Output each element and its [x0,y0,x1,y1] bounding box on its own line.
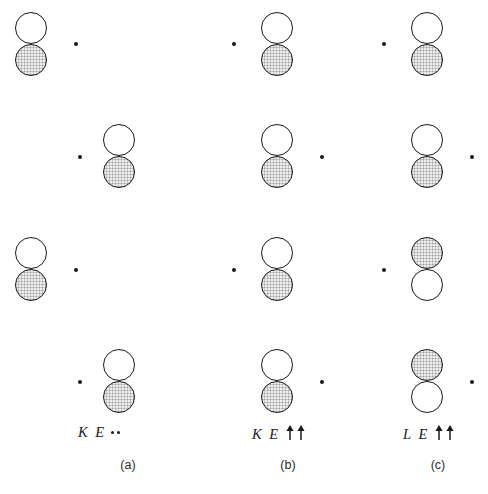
state-label-a: KE [78,424,120,441]
orbital-pair-b-row2 [261,124,297,194]
orbital-lobe-bottom-white [411,269,443,301]
orbital-lobe-bottom-gray [411,44,443,76]
spin-pair-arrows [286,425,305,444]
orbital-lobe-top-gray [411,349,443,381]
arrow-up-icon [435,425,443,444]
nucleus-dot-b-row3 [232,268,236,272]
orbital-lobe-bottom-white [411,381,443,413]
orbital-lobe-bottom-gray [103,381,135,413]
state-label-c: LE [403,424,454,443]
spin-dot-icon [117,431,120,434]
orbital-lobe-top-white [261,237,293,269]
orbital-lobe-top-white [103,349,135,381]
orbital-pair-b-row4 [261,349,297,419]
nucleus-dot-b-row4 [320,380,324,384]
orbital-overlap-figure: KE(a)KE(b)LE(c) [0,0,488,494]
orbital-pair-a-row3 [15,237,51,307]
orbital-pair-c-row2 [411,124,447,194]
state-label-b: KE [252,424,305,443]
orbital-lobe-bottom-gray [411,156,443,188]
orbital-pair-c-row1 [411,12,447,82]
orbital-lobe-top-gray [411,237,443,269]
spin-pair-dots [111,431,120,434]
orbital-pair-b-row1 [261,12,297,82]
nucleus-dot-b-row1 [232,42,236,46]
orbital-lobe-bottom-gray [261,156,293,188]
spin-pair-arrows [435,425,454,444]
orbital-lobe-bottom-gray [261,381,293,413]
orbital-lobe-top-white [261,124,293,156]
orbital-lobe-top-white [261,12,293,44]
orbital-lobe-bottom-gray [261,44,293,76]
orbital-lobe-top-white [411,12,443,44]
state-letter-primary: K [252,426,262,443]
orbital-lobe-top-white [103,124,135,156]
state-letter-secondary: E [419,426,428,443]
nucleus-dot-a-row3 [74,268,78,272]
orbital-pair-b-row3 [261,237,297,307]
nucleus-dot-c-row4 [470,380,474,384]
orbital-pair-a-row2 [103,124,139,194]
state-letter-primary: L [403,426,412,443]
panel-caption-c: (c) [418,458,458,472]
nucleus-dot-a-row1 [74,42,78,46]
nucleus-dot-c-row2 [470,155,474,159]
orbital-lobe-bottom-gray [261,269,293,301]
arrow-up-icon [446,425,454,444]
spin-dot-icon [111,431,114,434]
nucleus-dot-b-row2 [320,155,324,159]
orbital-lobe-top-white [261,349,293,381]
orbital-lobe-top-white [411,124,443,156]
nucleus-dot-c-row1 [382,42,386,46]
orbital-pair-a-row4 [103,349,139,419]
orbital-pair-c-row3 [411,237,447,307]
arrow-up-icon [297,425,305,444]
orbital-lobe-bottom-gray [15,44,47,76]
nucleus-dot-a-row2 [78,155,82,159]
orbital-lobe-top-white [15,12,47,44]
orbital-lobe-top-white [15,237,47,269]
orbital-lobe-bottom-gray [103,156,135,188]
orbital-pair-c-row4 [411,349,447,419]
orbital-lobe-bottom-gray [15,269,47,301]
panel-caption-a: (a) [108,458,148,472]
state-letter-secondary: E [95,424,104,441]
arrow-up-icon [286,425,294,444]
state-letter-secondary: E [269,426,278,443]
nucleus-dot-c-row3 [382,268,386,272]
panel-caption-b: (b) [268,458,308,472]
nucleus-dot-a-row4 [78,380,82,384]
orbital-pair-a-row1 [15,12,51,82]
state-letter-primary: K [78,424,88,441]
